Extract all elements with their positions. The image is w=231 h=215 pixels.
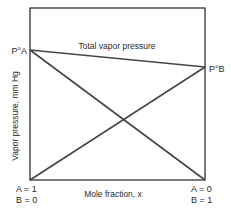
vapor-pressure-chart: P°A P°B Total vapor pressure Vapor press…: [0, 0, 231, 215]
label-total-vapor-pressure: Total vapor pressure: [78, 41, 155, 51]
x-right-label-b: B = 1: [191, 195, 212, 205]
label-p-b: P°B: [209, 64, 225, 74]
x-axis-label: Mole fraction, x: [84, 189, 142, 199]
line-total-vapor-pressure: [30, 50, 205, 67]
plot-frame: [30, 8, 205, 180]
label-p-a: P°A: [11, 46, 27, 56]
x-left-label-b: B = 0: [16, 195, 37, 205]
y-axis-label: Vapor pressure, mm Hg: [10, 71, 20, 161]
x-left-label-a: A = 1: [16, 184, 37, 194]
line-partial-pressure-a: [30, 50, 205, 180]
x-right-label-a: A = 0: [191, 184, 212, 194]
line-partial-pressure-b: [30, 67, 205, 180]
